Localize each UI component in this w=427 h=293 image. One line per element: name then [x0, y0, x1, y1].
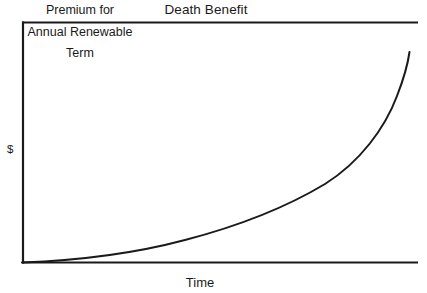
- chart-title: Death Benefit: [0, 3, 412, 17]
- chart-figure: Death Benefit $ Time Premium for Annual …: [0, 0, 427, 293]
- x-axis-label: Time: [0, 276, 400, 289]
- premium-curve: [22, 52, 410, 263]
- chart-plot-area: [0, 0, 427, 293]
- y-axis-label: $: [7, 144, 13, 156]
